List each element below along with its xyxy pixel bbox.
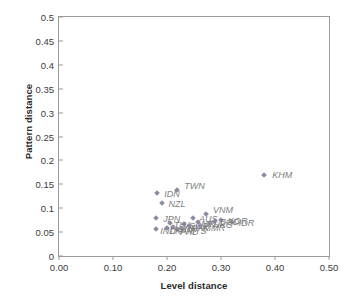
- y-axis-tick-label: 0.25: [36, 131, 60, 142]
- x-axis-tick-mark: [329, 256, 330, 260]
- data-point-marker: [153, 215, 159, 221]
- y-axis-title: Pattern distance: [23, 42, 34, 202]
- y-axis-tick-mark: [59, 184, 63, 185]
- y-axis-tick-mark: [59, 136, 63, 137]
- data-point-marker: [261, 172, 267, 178]
- y-axis-tick-label: 0.3: [41, 107, 59, 118]
- x-axis-tick-mark: [59, 256, 60, 260]
- data-point-label: TWN: [184, 181, 205, 191]
- y-axis-tick-mark: [59, 208, 63, 209]
- y-axis-tick-mark: [59, 40, 63, 41]
- y-axis-tick-mark: [59, 17, 63, 18]
- y-axis-tick-mark: [59, 160, 63, 161]
- y-axis-tick-label: 0.15: [36, 179, 60, 190]
- y-axis-tick-label: 0.5: [41, 12, 59, 23]
- x-axis-tick-mark: [113, 256, 114, 260]
- y-axis-tick-mark: [59, 112, 63, 113]
- data-point-label: HKG: [213, 220, 233, 230]
- data-point-marker: [159, 200, 165, 206]
- data-point-marker: [153, 226, 159, 232]
- y-axis-tick-label: 0.35: [36, 83, 60, 94]
- x-axis-tick-mark: [221, 256, 222, 260]
- x-axis-tick-mark: [275, 256, 276, 260]
- scatter-chart-figure: Pattern distance Level distance 00.050.1…: [0, 0, 345, 306]
- data-point-label: NZL: [169, 199, 186, 209]
- y-axis-tick-mark: [59, 64, 63, 65]
- y-axis-tick-label: 0.05: [36, 227, 60, 238]
- y-axis-tick-mark: [59, 88, 63, 89]
- y-axis-tick-label: 0.1: [41, 203, 59, 214]
- data-point-label: KHM: [272, 170, 292, 180]
- x-axis-tick-mark: [167, 256, 168, 260]
- data-point-label: IDR: [239, 218, 255, 228]
- y-axis-tick-mark: [59, 232, 63, 233]
- y-axis-tick-label: 0.4: [41, 59, 59, 70]
- y-axis-tick-label: 0.2: [41, 155, 59, 166]
- x-axis-title: Level distance: [58, 280, 330, 291]
- y-axis-tick-label: 0.45: [36, 35, 60, 46]
- data-point-marker: [154, 191, 160, 197]
- plot-area: 00.050.10.150.20.250.30.350.40.450.50.00…: [58, 16, 330, 257]
- data-point-label: IND: [160, 226, 176, 236]
